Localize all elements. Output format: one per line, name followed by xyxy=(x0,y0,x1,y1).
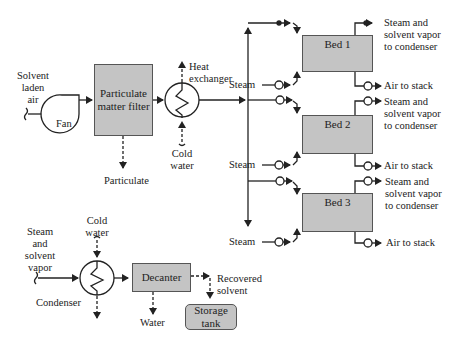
decanter: Decanter xyxy=(132,263,191,292)
water-label: Water xyxy=(140,317,165,329)
bed-1: Bed 1 xyxy=(302,35,373,72)
bed-2-steam-out: Steam andsolvent vaporto condenser xyxy=(384,96,441,132)
particulate-label: Particulate xyxy=(104,175,149,187)
condenser-label: Condenser xyxy=(36,297,81,309)
bed-1-air-out: Air to stack xyxy=(384,80,433,92)
steam-label-2: Steam xyxy=(229,159,255,171)
steam-label-1: Steam xyxy=(229,79,255,91)
bed-3-steam-out: Steam andsolvent vaporto condenser xyxy=(385,176,442,212)
particulate-matter-filter: Particulatematter filter xyxy=(94,64,153,136)
bed-3-air-out: Air to stack xyxy=(386,237,435,249)
solvent-laden-air-label: Solventladenair xyxy=(13,70,53,106)
recovered-solvent-label: Recoveredsolvent xyxy=(217,273,262,297)
steam-label-3: Steam xyxy=(229,236,255,248)
steam-solvent-vapor-label: Steamandsolventvapor xyxy=(20,226,60,274)
fan-label: Fan xyxy=(56,118,72,130)
heat-exchanger-label: Heatexchanger xyxy=(189,61,232,85)
bed-3: Bed 3 xyxy=(302,193,373,232)
bed-2: Bed 2 xyxy=(302,115,373,154)
storage-tank: Storagetank xyxy=(185,304,237,330)
condenser-cold-water-label: Coldwater xyxy=(82,215,112,239)
cold-water-label: Coldwater xyxy=(166,148,198,172)
bed-1-steam-out: Steam andsolvent vaporto condenser xyxy=(384,17,441,53)
bed-2-air-out: Air to stack xyxy=(384,160,433,172)
